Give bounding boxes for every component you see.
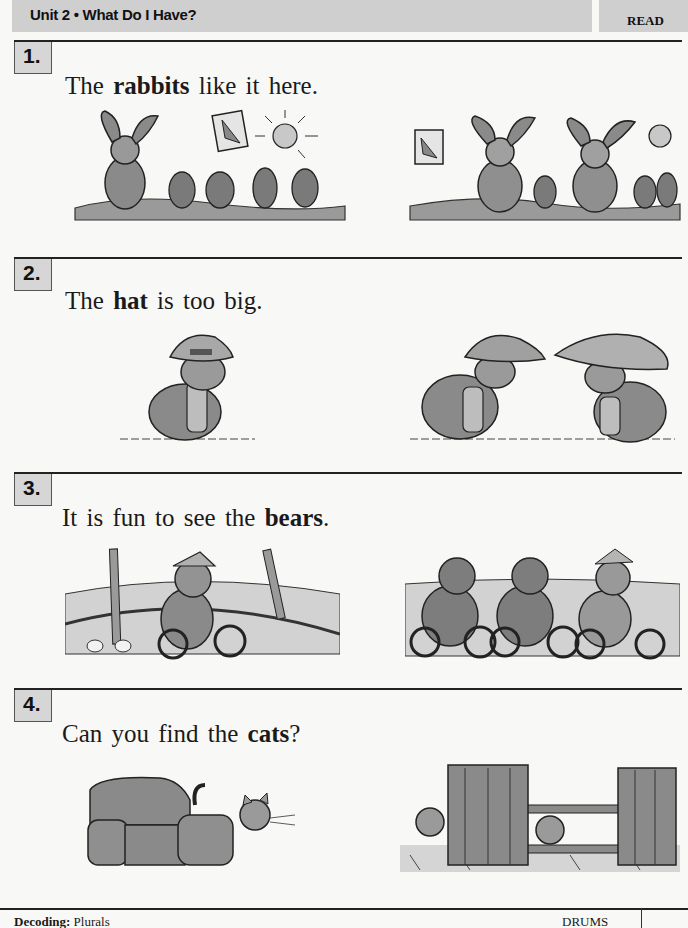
item-number: 1. (23, 44, 41, 68)
rabbit-garden-icon (70, 108, 350, 223)
target-word: rabbits (113, 72, 189, 99)
item-number-box: 1. (14, 42, 52, 74)
exercise-item-4: 4. Can you find the cats? (0, 688, 688, 903)
item-sentence: The hat is too big. (65, 287, 262, 315)
illustration-two-turtles-hats[interactable] (405, 327, 680, 452)
turtle-hat-icon (115, 327, 265, 452)
bear-tricycle-icon (65, 544, 340, 662)
footer-divider (0, 908, 688, 910)
item-number-box: 4. (14, 690, 52, 722)
unit-header-bar: Unit 2 • What Do I Have? (12, 0, 592, 32)
item-sentence: It is fun to see the bears. (62, 504, 329, 532)
illustration-one-cat-chair[interactable] (80, 770, 310, 870)
illustration-two-rabbits[interactable] (405, 108, 685, 223)
exercise-item-3: 3. It is fun to see the bears. (0, 472, 688, 687)
item-number-box: 3. (14, 474, 52, 506)
target-word: bears (265, 504, 323, 531)
illustration-three-bears-trikes[interactable] (405, 544, 680, 662)
exercise-item-1: 1. The rabbits like it here. (0, 40, 688, 255)
illustration-one-turtle-hat[interactable] (115, 327, 265, 452)
turtles-hats-icon (405, 327, 680, 452)
exercise-item-2: 2. The hat is too big. (0, 257, 688, 472)
target-word: cats (248, 720, 290, 747)
skill-label-value: Plurals (70, 914, 109, 928)
skill-label: Decoding: Plurals (14, 914, 110, 928)
rabbits-garden-icon (405, 108, 685, 223)
section-divider (14, 257, 682, 259)
item-number: 2. (23, 261, 41, 285)
unit-title: Unit 2 • What Do I Have? (30, 6, 196, 23)
illustration-one-bear-trike[interactable] (65, 544, 340, 662)
book-label: DRUMS (562, 914, 608, 928)
item-number: 4. (23, 692, 41, 716)
skill-label-key: Decoding: (14, 914, 70, 928)
read-tag-label: READ (627, 13, 664, 29)
item-number-box: 2. (14, 259, 52, 291)
cats-curtains-icon (400, 760, 680, 872)
item-sentence: The rabbits like it here. (65, 72, 318, 100)
item-number: 3. (23, 476, 41, 500)
illustration-one-rabbit[interactable] (70, 108, 350, 223)
target-word: hat (113, 287, 148, 314)
read-tag: READ (599, 0, 688, 32)
bears-tricycles-icon (405, 544, 680, 662)
section-divider (14, 472, 682, 474)
section-divider (14, 688, 682, 690)
item-sentence: Can you find the cats? (62, 720, 300, 748)
section-divider (14, 40, 682, 42)
cat-armchair-icon (80, 770, 310, 870)
illustration-two-cats-curtains[interactable] (400, 760, 680, 872)
footer-vertical-divider (641, 908, 642, 928)
